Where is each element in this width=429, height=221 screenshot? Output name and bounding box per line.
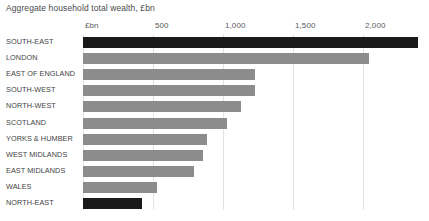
y-axis-category-labels: SOUTH-EASTLONDONEAST OF ENGLANDSOUTH-WES… xyxy=(0,34,78,210)
category-label: SCOTLAND xyxy=(0,117,78,128)
category-label: WEST MIDLANDS xyxy=(0,149,78,160)
tick-label-1000: 1,000 xyxy=(225,20,246,32)
bar xyxy=(83,101,241,112)
plot-area xyxy=(83,34,429,210)
category-label: YORKS & HUMBER xyxy=(0,133,78,144)
category-label: WALES xyxy=(0,181,78,192)
category-label: SOUTH-WEST xyxy=(0,84,78,95)
axis-unit-label: £bn xyxy=(85,20,99,32)
category-label: EAST OF ENGLAND xyxy=(0,68,78,79)
bar xyxy=(83,37,418,48)
bar xyxy=(83,85,255,96)
category-label: NORTH-WEST xyxy=(0,100,78,111)
bar xyxy=(83,53,369,64)
bar xyxy=(83,118,227,129)
bar xyxy=(83,166,194,177)
tick-label-2000: 2,000 xyxy=(365,20,386,32)
bar xyxy=(83,134,207,145)
x-axis-tick-labels: £bn5001,0001,5002,000 xyxy=(0,20,429,32)
bar-chart: Aggregate household total wealth, £bn £b… xyxy=(0,0,429,221)
category-label: LONDON xyxy=(0,52,78,63)
bar xyxy=(83,182,157,193)
category-label: NORTH-EAST xyxy=(0,197,78,208)
tick-label-1500: 1,500 xyxy=(295,20,316,32)
tick-label-500: 500 xyxy=(155,20,169,32)
bar xyxy=(83,150,203,161)
category-label: EAST MIDLANDS xyxy=(0,165,78,176)
bar xyxy=(83,69,255,80)
chart-title: Aggregate household total wealth, £bn xyxy=(6,3,155,14)
bar xyxy=(83,198,142,209)
category-label: SOUTH-EAST xyxy=(0,36,78,47)
